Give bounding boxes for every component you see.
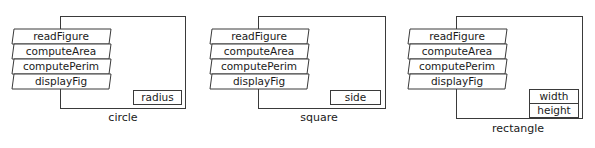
method-label: computeArea — [224, 45, 295, 57]
method-label: readFigure — [429, 30, 485, 42]
diagram-canvas: readFigure computeArea computePerim disp… — [0, 0, 595, 148]
method-label: readFigure — [231, 30, 287, 42]
object-square: readFigure computeArea computePerim disp… — [210, 17, 386, 125]
object-circle: readFigure computeArea computePerim disp… — [12, 17, 186, 125]
field-label: radius — [141, 91, 173, 103]
object-name: rectangle — [492, 122, 544, 135]
method-label: computeArea — [26, 45, 97, 57]
field-label: side — [345, 91, 367, 103]
method-label: computePerim — [23, 60, 99, 72]
field-label: height — [537, 104, 570, 116]
method-label: computePerim — [221, 60, 297, 72]
method-label: computeArea — [422, 45, 493, 57]
method-label: computePerim — [419, 60, 495, 72]
method-label: displayFig — [431, 75, 483, 87]
object-name: circle — [108, 111, 137, 124]
object-rectangle: readFigure computeArea computePerim disp… — [408, 17, 583, 136]
method-label: displayFig — [233, 75, 285, 87]
field-label: width — [540, 90, 569, 102]
method-label: readFigure — [33, 30, 89, 42]
object-name: square — [300, 111, 338, 124]
method-label: displayFig — [35, 75, 87, 87]
